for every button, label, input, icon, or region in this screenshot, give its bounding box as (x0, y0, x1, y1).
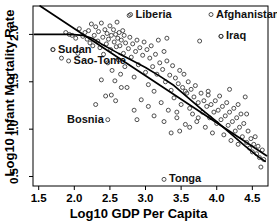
y-tick-label: 0.5 (8, 163, 20, 189)
data-point (220, 104, 224, 108)
data-point (159, 101, 163, 105)
data-point (135, 118, 139, 122)
data-point (106, 37, 110, 41)
data-point (196, 101, 200, 105)
data-point (152, 114, 156, 118)
data-point (144, 70, 148, 74)
data-point (134, 49, 138, 53)
data-point (101, 35, 105, 39)
data-point (104, 94, 108, 98)
data-point (112, 40, 116, 44)
data-point (146, 104, 150, 108)
data-point (171, 64, 175, 68)
x-tick-label: 2.0 (59, 192, 89, 204)
data-point (94, 25, 98, 29)
y-tick-label: 2.0 (8, 20, 20, 46)
data-point (246, 129, 250, 133)
point-annotation-label: Liberia (136, 8, 172, 20)
data-point (145, 48, 149, 52)
data-point (92, 33, 96, 37)
data-point (228, 110, 232, 114)
data-point (183, 122, 187, 126)
highlighted-data-point (162, 177, 166, 181)
data-point (97, 30, 101, 34)
data-point (202, 99, 206, 103)
data-point (74, 36, 78, 40)
x-axis-ticks (39, 186, 253, 190)
point-annotation-label: Bosnia (0, 113, 104, 125)
data-point (189, 87, 193, 91)
data-point (99, 21, 103, 25)
data-point (186, 80, 190, 84)
data-point (178, 68, 182, 72)
data-point (178, 129, 182, 133)
data-point (188, 106, 192, 110)
data-point (94, 103, 98, 107)
data-point (181, 85, 185, 89)
data-point (168, 73, 172, 77)
data-point (176, 82, 180, 86)
data-point (151, 65, 155, 69)
data-point (179, 103, 183, 107)
scatter-plot-figure: Log10 Infant Mortality Rate Log10 GDP Pe… (0, 0, 277, 223)
data-point (238, 125, 242, 129)
data-point (230, 120, 234, 124)
x-tick-label: 1.5 (24, 192, 54, 204)
data-point (138, 46, 142, 50)
point-annotation-label: Iraq (226, 29, 246, 41)
data-point (149, 44, 153, 48)
data-point (108, 24, 112, 28)
data-point (225, 101, 229, 105)
data-point (132, 108, 136, 112)
data-point (119, 72, 123, 76)
data-point (256, 144, 260, 148)
data-point (193, 84, 197, 88)
data-point (218, 94, 222, 98)
data-point (223, 114, 227, 118)
data-point (175, 110, 179, 114)
data-point (165, 36, 169, 40)
highlighted-data-point (209, 13, 213, 17)
data-point (125, 85, 129, 89)
data-point (169, 131, 173, 135)
x-tick-label: 2.5 (95, 192, 125, 204)
data-point (162, 120, 166, 124)
data-point (59, 56, 63, 60)
data-point (175, 116, 179, 120)
data-point (182, 72, 186, 76)
data-point (110, 68, 114, 72)
data-point (236, 103, 240, 107)
data-point (236, 142, 240, 146)
data-point (131, 42, 135, 46)
data-point (115, 20, 119, 24)
data-point (210, 131, 214, 135)
y-tick-label: 1.5 (8, 68, 20, 94)
data-point (99, 78, 103, 82)
data-point (142, 40, 146, 44)
data-point (212, 110, 216, 114)
data-point (158, 61, 162, 65)
data-point (199, 91, 203, 95)
data-point (89, 22, 93, 26)
x-tick-label: 4.5 (237, 192, 267, 204)
data-point (146, 83, 150, 87)
data-point (243, 95, 247, 99)
data-point (191, 112, 195, 116)
data-point (219, 118, 223, 122)
data-point (242, 121, 246, 125)
data-point (111, 28, 115, 32)
data-point (126, 47, 130, 51)
data-point (165, 59, 169, 63)
highlighted-data-point (51, 48, 55, 52)
x-tick-label: 3.0 (131, 192, 161, 204)
point-annotation-label: Afghanistan (216, 8, 277, 20)
point-annotation-label: Tonga (169, 172, 201, 184)
data-point (113, 79, 117, 83)
data-point (87, 29, 91, 33)
data-point (132, 75, 136, 79)
highlighted-data-point (219, 34, 223, 38)
data-point (172, 96, 176, 100)
data-point (213, 99, 217, 103)
data-point (232, 106, 236, 110)
data-point (222, 133, 226, 137)
